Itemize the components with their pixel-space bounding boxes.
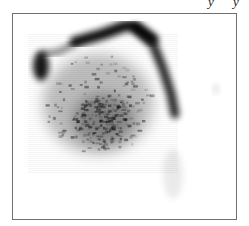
density-heatmap — [13, 14, 237, 220]
plot-frame — [12, 13, 237, 220]
cut-off-label-fragment: y — [208, 0, 214, 10]
cut-off-label-fragment: y — [233, 0, 239, 10]
right-speck — [213, 84, 219, 94]
